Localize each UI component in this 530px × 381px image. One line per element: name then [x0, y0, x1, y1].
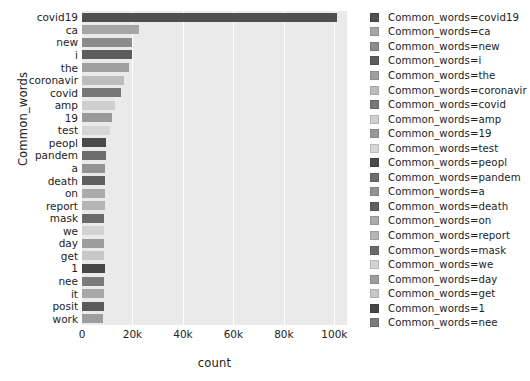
legend-item-label: Common_words=death	[388, 201, 508, 212]
bar	[82, 264, 105, 273]
legend-item-label: Common_words=nee	[388, 317, 498, 328]
plot-area	[82, 11, 347, 325]
bar	[82, 151, 106, 160]
bar-row	[82, 113, 347, 122]
y-tick-label: amp	[0, 100, 78, 110]
y-tick-label: day	[0, 238, 78, 248]
bar	[82, 201, 105, 210]
legend-item[interactable]: Common_words=amp	[370, 112, 530, 127]
bar-row	[82, 164, 347, 173]
x-axis-title: count	[82, 356, 347, 370]
legend-item[interactable]: Common_words=mask	[370, 243, 530, 258]
legend-item[interactable]: Common_words=1	[370, 301, 530, 316]
bar	[82, 164, 105, 173]
bar	[82, 239, 104, 248]
bar-series	[82, 11, 347, 325]
bar-row	[82, 13, 347, 22]
legend-item[interactable]: Common_words=covid19	[370, 10, 530, 25]
bar-row	[82, 25, 347, 34]
legend-item[interactable]: Common_words=the	[370, 68, 530, 83]
bar-row	[82, 264, 347, 273]
legend-item[interactable]: Common_words=19	[370, 126, 530, 141]
bar	[82, 251, 104, 260]
y-tick-label: covid	[0, 88, 78, 98]
legend-item[interactable]: Common_words=ca	[370, 25, 530, 40]
bar	[82, 214, 104, 223]
bar	[82, 277, 104, 286]
legend-item-label: Common_words=coronavir	[388, 85, 527, 96]
legend-swatch-icon	[370, 42, 379, 51]
bar-row	[82, 38, 347, 47]
legend-item-label: Common_words=i	[388, 55, 481, 66]
y-tick-label: test	[0, 125, 78, 135]
legend-swatch-icon	[370, 231, 379, 240]
legend-item[interactable]: Common_words=a	[370, 185, 530, 200]
bar-row	[82, 138, 347, 147]
legend-item[interactable]: Common_words=death	[370, 199, 530, 214]
legend-item[interactable]: Common_words=report	[370, 228, 530, 243]
y-tick-label: mask	[0, 213, 78, 223]
bar-row	[82, 88, 347, 97]
legend-item[interactable]: Common_words=test	[370, 141, 530, 156]
legend-item[interactable]: Common_words=day	[370, 272, 530, 287]
legend-item-label: Common_words=mask	[388, 245, 506, 256]
y-tick-label: get	[0, 251, 78, 261]
bar-row	[82, 63, 347, 72]
x-tick-label: 100k	[304, 328, 364, 340]
legend-item[interactable]: Common_words=coronavir	[370, 83, 530, 98]
bar-row	[82, 251, 347, 260]
legend-swatch-icon	[370, 173, 379, 182]
legend-item[interactable]: Common_words=on	[370, 214, 530, 229]
y-tick-label: pandem	[0, 150, 78, 160]
legend-item[interactable]: Common_words=covid	[370, 97, 530, 112]
bar	[82, 50, 132, 59]
bar-row	[82, 302, 347, 311]
legend-item[interactable]: Common_words=nee	[370, 315, 530, 330]
legend-item-label: Common_words=covid	[388, 99, 506, 110]
legend-swatch-icon	[370, 86, 379, 95]
legend-item[interactable]: Common_words=we	[370, 257, 530, 272]
bar-row	[82, 76, 347, 85]
y-tick-label: posit	[0, 301, 78, 311]
bar	[82, 113, 112, 122]
bar	[82, 38, 132, 47]
legend-item-label: Common_words=on	[388, 215, 491, 226]
legend-item[interactable]: Common_words=peopl	[370, 155, 530, 170]
legend-item[interactable]: Common_words=i	[370, 54, 530, 69]
bar-row	[82, 189, 347, 198]
bar-row	[82, 226, 347, 235]
y-tick-label: the	[0, 63, 78, 73]
legend-item-label: Common_words=1	[388, 303, 485, 314]
bar	[82, 126, 110, 135]
legend-item[interactable]: Common_words=new	[370, 39, 530, 54]
bar-row	[82, 314, 347, 323]
legend-item[interactable]: Common_words=pandem	[370, 170, 530, 185]
legend-swatch-icon	[370, 13, 379, 22]
legend-item-label: Common_words=get	[388, 288, 495, 299]
legend-swatch-icon	[370, 318, 379, 327]
legend-item-label: Common_words=the	[388, 70, 495, 81]
y-tick-label: death	[0, 176, 78, 186]
bar	[82, 302, 104, 311]
y-tick-label: it	[0, 289, 78, 299]
bar-chart-figure: Common_words covid19canewithecoronavirco…	[0, 0, 530, 381]
bar	[82, 13, 337, 22]
y-tick-label: covid19	[0, 12, 78, 22]
bar-row	[82, 101, 347, 110]
bar	[82, 138, 106, 147]
legend-swatch-icon	[370, 100, 379, 109]
legend-swatch-icon	[370, 27, 379, 36]
legend-item[interactable]: Common_words=get	[370, 286, 530, 301]
legend-item-label: Common_words=19	[388, 128, 492, 139]
y-tick-label: ca	[0, 25, 78, 35]
bar	[82, 25, 139, 34]
legend-swatch-icon	[370, 289, 379, 298]
bar	[82, 101, 115, 110]
y-tick-label: on	[0, 188, 78, 198]
bar-row	[82, 289, 347, 298]
y-tick-label: 19	[0, 113, 78, 123]
legend-swatch-icon	[370, 260, 379, 269]
legend-swatch-icon	[370, 275, 379, 284]
y-tick-label: a	[0, 163, 78, 173]
legend-item-label: Common_words=day	[388, 274, 497, 285]
